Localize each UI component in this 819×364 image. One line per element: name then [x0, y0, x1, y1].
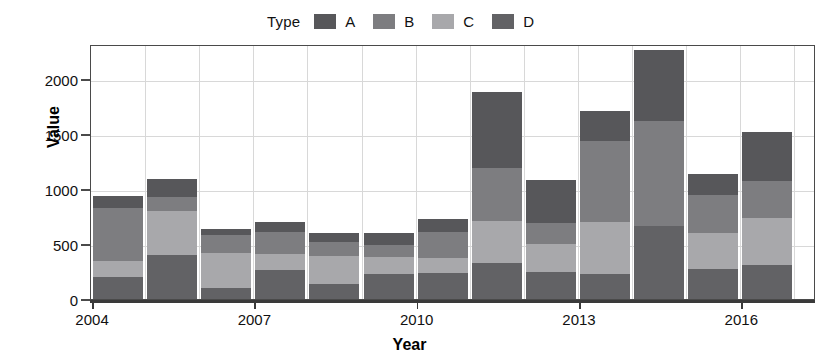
- legend-item-a[interactable]: A: [314, 13, 355, 30]
- bar-segment-2014-d[interactable]: [634, 226, 684, 299]
- legend-swatch-c-icon: [432, 14, 454, 29]
- bar-segment-2006-a[interactable]: [201, 229, 251, 235]
- x-tick-label: 2004: [75, 311, 108, 328]
- bar-2012[interactable]: [526, 45, 576, 299]
- legend-swatch-b-icon: [373, 14, 395, 29]
- bar-segment-2009-c[interactable]: [364, 257, 414, 274]
- bar-segment-2013-c[interactable]: [580, 222, 630, 275]
- bar-2004[interactable]: [93, 45, 143, 299]
- bar-segment-2016-b[interactable]: [742, 181, 792, 217]
- bar-segment-2015-c[interactable]: [688, 233, 738, 269]
- x-tick-mark: [579, 300, 581, 309]
- bar-segment-2013-d[interactable]: [580, 274, 630, 299]
- bar-segment-2010-b[interactable]: [418, 232, 468, 258]
- bar-segment-2008-a[interactable]: [309, 233, 359, 242]
- x-tick-label: 2007: [238, 311, 271, 328]
- chart-legend: Type ABCD: [0, 8, 819, 34]
- x-tick-mark: [92, 300, 94, 309]
- legend-item-c[interactable]: C: [432, 13, 474, 30]
- bar-segment-2005-a[interactable]: [147, 179, 197, 197]
- bar-segment-2012-c[interactable]: [526, 244, 576, 271]
- bar-segment-2007-a[interactable]: [255, 222, 305, 232]
- bar-segment-2007-d[interactable]: [255, 270, 305, 299]
- bar-segment-2004-d[interactable]: [93, 277, 143, 299]
- bar-segment-2008-b[interactable]: [309, 242, 359, 256]
- bar-segment-2011-d[interactable]: [472, 263, 522, 299]
- y-tick-mark: [81, 79, 90, 81]
- legend-label: B: [404, 13, 414, 30]
- bar-segment-2016-d[interactable]: [742, 265, 792, 299]
- legend-item-d[interactable]: D: [492, 13, 534, 30]
- x-tick-mark: [741, 300, 743, 309]
- y-tick-mark: [81, 244, 90, 246]
- bar-segment-2010-c[interactable]: [418, 258, 468, 272]
- legend-label: A: [345, 13, 355, 30]
- bar-2006[interactable]: [201, 45, 251, 299]
- y-tick-label: 500: [53, 237, 78, 254]
- legend-label: C: [463, 13, 474, 30]
- bar-segment-2004-a[interactable]: [93, 196, 143, 208]
- bar-2009[interactable]: [364, 45, 414, 299]
- bar-2016[interactable]: [742, 45, 792, 299]
- bar-segment-2009-a[interactable]: [364, 233, 414, 245]
- bar-segment-2006-c[interactable]: [201, 253, 251, 288]
- bar-segment-2012-b[interactable]: [526, 223, 576, 244]
- bar-2005[interactable]: [147, 45, 197, 299]
- legend-title: Type: [267, 13, 300, 30]
- bar-segment-2005-b[interactable]: [147, 197, 197, 211]
- bar-segment-2004-b[interactable]: [93, 208, 143, 261]
- bar-segment-2008-d[interactable]: [309, 284, 359, 299]
- bar-segment-2013-a[interactable]: [580, 111, 630, 142]
- bar-segment-2010-a[interactable]: [418, 219, 468, 232]
- x-axis-label: Year: [0, 336, 819, 354]
- bar-segment-2014-b[interactable]: [634, 121, 684, 227]
- y-tick-mark: [81, 189, 90, 191]
- bar-segment-2008-c[interactable]: [309, 256, 359, 283]
- bar-segment-2006-b[interactable]: [201, 235, 251, 253]
- bar-segment-2007-c[interactable]: [255, 254, 305, 270]
- bar-segment-2005-d[interactable]: [147, 255, 197, 299]
- x-tick-mark: [254, 300, 256, 309]
- bar-segment-2016-a[interactable]: [742, 132, 792, 181]
- bar-2011[interactable]: [472, 45, 522, 299]
- bar-segment-2011-a[interactable]: [472, 92, 522, 168]
- x-axis-ticks: 20042007201020132016: [0, 300, 819, 340]
- bar-segment-2007-b[interactable]: [255, 232, 305, 254]
- bar-segment-2015-b[interactable]: [688, 195, 738, 232]
- bar-2008[interactable]: [309, 45, 359, 299]
- bar-segment-2016-c[interactable]: [742, 218, 792, 265]
- bar-segment-2014-a[interactable]: [634, 50, 684, 121]
- bar-segment-2011-b[interactable]: [472, 168, 522, 221]
- legend-swatch-a-icon: [314, 14, 336, 29]
- legend-swatch-d-icon: [492, 14, 514, 29]
- bar-2015[interactable]: [688, 45, 738, 299]
- bar-segment-2013-b[interactable]: [580, 141, 630, 221]
- bar-segment-2005-c[interactable]: [147, 211, 197, 255]
- legend-item-b[interactable]: B: [373, 13, 414, 30]
- x-tick-label: 2010: [400, 311, 433, 328]
- bar-segment-2015-d[interactable]: [688, 269, 738, 299]
- bar-segment-2011-c[interactable]: [472, 221, 522, 263]
- bar-segment-2006-d[interactable]: [201, 288, 251, 299]
- bar-segment-2012-a[interactable]: [526, 180, 576, 223]
- x-tick-mark: [417, 300, 419, 309]
- bar-segment-2015-a[interactable]: [688, 174, 738, 195]
- bar-2013[interactable]: [580, 45, 630, 299]
- plot-area: [90, 45, 815, 300]
- x-tick-label: 2013: [562, 311, 595, 328]
- bar-segment-2004-c[interactable]: [93, 261, 143, 277]
- bar-2010[interactable]: [418, 45, 468, 299]
- y-axis-label: Value: [45, 67, 63, 187]
- bar-segment-2010-d[interactable]: [418, 273, 468, 299]
- legend-label: D: [523, 13, 534, 30]
- bar-segment-2009-b[interactable]: [364, 245, 414, 257]
- bar-group: [91, 46, 814, 299]
- y-tick-mark: [81, 134, 90, 136]
- bar-2014[interactable]: [634, 45, 684, 299]
- x-tick-label: 2016: [725, 311, 758, 328]
- bar-2007[interactable]: [255, 45, 305, 299]
- bar-segment-2012-d[interactable]: [526, 272, 576, 299]
- chart-root: Type ABCD 0500100015002000 2004200720102…: [0, 0, 819, 364]
- bar-segment-2009-d[interactable]: [364, 274, 414, 299]
